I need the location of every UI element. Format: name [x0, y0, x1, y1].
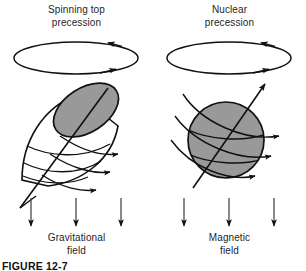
panel-spinning-top: Spinning top precession: [0, 0, 153, 258]
nucleus-body: [171, 84, 279, 188]
panel-title-nuclear: Nuclear precession: [153, 4, 306, 29]
field-label-magnetic: Magnetic field: [153, 232, 306, 257]
panel-nuclear: Nuclear precession: [153, 0, 306, 258]
field-arrow-group: [31, 198, 121, 226]
spinning-top-body: [20, 72, 128, 208]
figure-container: Spinning top precession: [0, 0, 306, 271]
precession-orbit-ellipse: [167, 42, 291, 74]
panel-title-spinning-top: Spinning top precession: [0, 4, 153, 29]
field-arrow-group: [184, 198, 274, 226]
figure-caption: FIGURE 12-7: [2, 260, 68, 271]
precession-orbit-ellipse: [14, 42, 138, 74]
nuclear-precession-diagram: [153, 30, 306, 232]
spinning-top-diagram: [0, 30, 153, 232]
field-label-gravitational: Gravitational field: [0, 232, 153, 257]
